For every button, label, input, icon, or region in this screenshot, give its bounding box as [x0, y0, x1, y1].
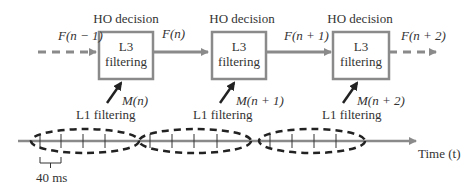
l1-filtering-label-3: L1 filtering — [322, 107, 382, 122]
flow-label-2: F(n + 1) — [283, 28, 329, 43]
measurement-arrow-1 — [107, 83, 121, 103]
flow-label-1: F(n) — [161, 26, 185, 41]
measurement-label-1: M(n) — [121, 93, 148, 108]
measurement-label-2: M(n + 1) — [235, 93, 284, 108]
handover-filtering-diagram: L3 filtering L3 filtering L3 filtering H… — [0, 0, 473, 188]
time-axis-label: Time (t) — [418, 146, 461, 161]
l1-filtering-label-1: L1 filtering — [76, 107, 136, 122]
measurement-arrow-2 — [220, 83, 234, 103]
ho-decision-label-3: HO decision — [327, 11, 393, 26]
box-1-line1: L3 — [119, 39, 133, 54]
box-2-line1: L3 — [232, 39, 246, 54]
measurement-label-3: M(n + 2) — [356, 93, 405, 108]
l1-filtering-label-2: L1 filtering — [193, 107, 253, 122]
ho-decision-label-1: HO decision — [93, 11, 159, 26]
box-2-line2: filtering — [218, 54, 260, 69]
box-3-line2: filtering — [340, 54, 382, 69]
box-3-line1: L3 — [354, 39, 368, 54]
measurement-arrow-3 — [343, 83, 357, 103]
interval-bracket — [40, 157, 61, 168]
interval-label: 40 ms — [36, 170, 67, 185]
flow-label-0: F(n − 1) — [57, 28, 103, 43]
box-1-line2: filtering — [105, 54, 147, 69]
ho-decision-label-2: HO decision — [209, 11, 275, 26]
flow-label-3: F(n + 2) — [400, 28, 446, 43]
